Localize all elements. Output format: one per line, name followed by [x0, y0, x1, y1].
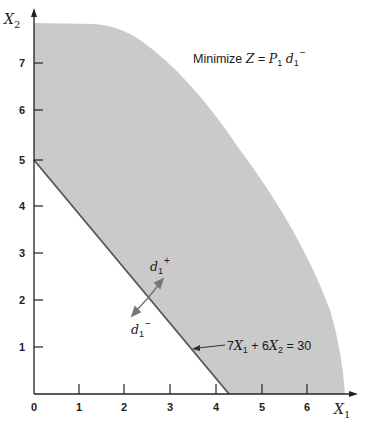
goal-programming-chart: 1 2 3 4 5 6 7 0 1 2 3 4 5 6 X2 X1 Minimi…: [0, 0, 365, 429]
x-tick-labels: 0 1 2 3 4 5 6: [31, 401, 310, 413]
y-tick-label: 4: [19, 200, 26, 212]
x-tick-label: 4: [213, 401, 220, 413]
y-tick-label: 7: [19, 57, 25, 69]
x-axis-label: X1: [333, 401, 350, 420]
y-tick-labels: 1 2 3 4 5 6 7: [19, 57, 26, 353]
y-tick-label: 3: [19, 247, 25, 259]
x-tick-label: 0: [31, 401, 37, 413]
y-tick-label: 5: [19, 154, 25, 166]
y-tick-label: 1: [19, 341, 25, 353]
x-tick-label: 5: [259, 401, 265, 413]
y-axis-label: X2: [3, 11, 20, 30]
constraint-equation-label: 7X1 + 6X2 = 30: [227, 338, 311, 355]
y-axis-arrow-icon: [31, 8, 37, 17]
y-tick-label: 6: [19, 104, 25, 116]
x-axis-arrow-icon: [349, 391, 358, 397]
x-tick-label: 6: [304, 401, 310, 413]
x-tick-label: 3: [167, 401, 173, 413]
d1-minus-label: d1−: [131, 318, 151, 339]
y-tick-label: 2: [19, 294, 25, 306]
x-tick-label: 2: [121, 401, 127, 413]
chart-title: Minimize Z = P1 d1−: [193, 47, 306, 68]
x-tick-label: 1: [76, 401, 82, 413]
